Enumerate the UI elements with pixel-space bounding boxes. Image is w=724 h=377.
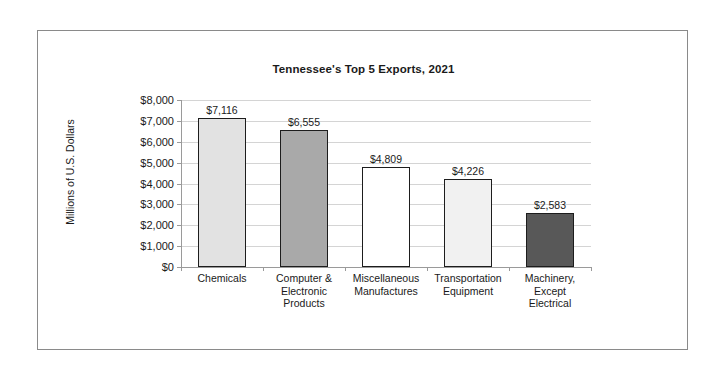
bar-value-label: $4,226: [452, 165, 484, 177]
bar-value-label: $6,555: [288, 116, 320, 128]
plot-area: $0$1,000$2,000$3,000$4,000$5,000$6,000$7…: [181, 100, 591, 267]
chart-page: Tennessee's Top 5 Exports, 2021 Millions…: [0, 0, 724, 377]
bar-group[interactable]: $4,809: [362, 100, 410, 267]
category-label: Chemicals: [181, 272, 263, 285]
y-tick-label: $3,000: [140, 198, 174, 210]
category-label: Machinery,ExceptElectrical: [509, 272, 591, 310]
bar-value-label: $4,809: [370, 153, 402, 165]
y-tick-label: $8,000: [140, 94, 174, 106]
y-tick-mark: [177, 246, 181, 247]
x-tick-mark: [345, 267, 346, 271]
bar-group[interactable]: $7,116: [198, 100, 246, 267]
y-tick-label: $7,000: [140, 115, 174, 127]
x-tick-mark: [181, 267, 182, 271]
y-tick-mark: [177, 163, 181, 164]
y-tick-mark: [177, 142, 181, 143]
bar-value-label: $2,583: [534, 199, 566, 211]
x-axis-line: [181, 267, 591, 268]
y-tick-mark: [177, 100, 181, 101]
bar-group[interactable]: $2,583: [526, 100, 574, 267]
bar[interactable]: [362, 167, 410, 267]
bar-group[interactable]: $6,555: [280, 100, 328, 267]
y-tick-label: $1,000: [140, 240, 174, 252]
category-label: TransportationEquipment: [427, 272, 509, 297]
y-axis-line: [181, 100, 182, 268]
x-tick-mark: [591, 267, 592, 271]
bar[interactable]: [444, 179, 492, 267]
y-tick-mark: [177, 225, 181, 226]
figure-frame: Tennessee's Top 5 Exports, 2021 Millions…: [37, 30, 688, 350]
y-tick-label: $0: [162, 261, 174, 273]
y-tick-label: $4,000: [140, 178, 174, 190]
y-axis-title: Millions of U.S. Dollars: [64, 92, 76, 252]
x-tick-mark: [263, 267, 264, 271]
bar[interactable]: [198, 118, 246, 267]
category-label: Computer &ElectronicProducts: [263, 272, 345, 310]
y-tick-mark: [177, 184, 181, 185]
bar[interactable]: [526, 213, 574, 267]
category-label: MiscellaneousManufactures: [345, 272, 427, 297]
x-tick-mark: [509, 267, 510, 271]
y-tick-label: $5,000: [140, 157, 174, 169]
x-tick-mark: [427, 267, 428, 271]
y-tick-label: $2,000: [140, 219, 174, 231]
chart-title: Tennessee's Top 5 Exports, 2021: [38, 63, 689, 75]
y-tick-mark: [177, 204, 181, 205]
bar-group[interactable]: $4,226: [444, 100, 492, 267]
y-tick-label: $6,000: [140, 136, 174, 148]
bar-value-label: $7,116: [206, 104, 237, 116]
bar[interactable]: [280, 130, 328, 267]
y-tick-mark: [177, 121, 181, 122]
